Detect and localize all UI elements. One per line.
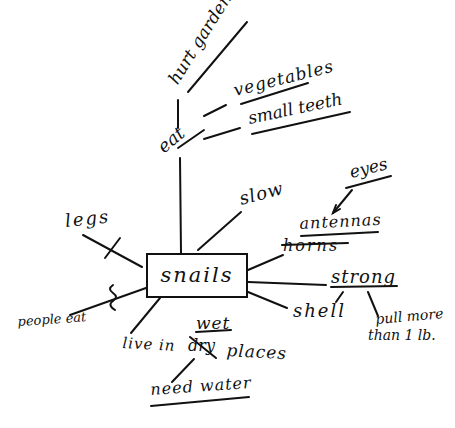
node-live-in: live in: [122, 336, 176, 354]
node-legs-crossed-out: legs: [64, 207, 111, 230]
concept-map-canvas: snails hurt gardens eat vegetables small…: [0, 0, 455, 428]
center-node-snails: snails: [146, 253, 248, 298]
node-dry-crossed-out: dry: [188, 338, 215, 354]
node-wet: wet: [196, 315, 230, 332]
node-than-1lb: than 1 lb.: [368, 328, 436, 342]
node-strong: strong: [331, 268, 396, 286]
node-horns-crossed-out: horns: [283, 238, 339, 254]
node-shell: shell: [293, 302, 346, 320]
center-label: snails: [160, 265, 233, 286]
node-antennas: antennas: [299, 212, 382, 232]
node-places: places: [226, 342, 288, 362]
